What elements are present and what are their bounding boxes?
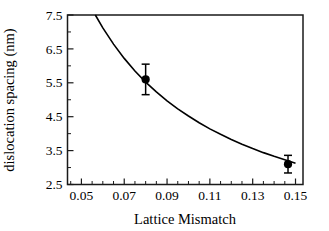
x-axis-title: Lattice Mismatch [134,211,237,227]
x-tick-label-2: 0.09 [155,188,179,203]
y-axis-ticks [68,15,74,185]
x-tick-label-0: 0.05 [70,188,94,203]
data-point-group-0 [142,64,150,95]
y-tick-label-4: 6.5 [46,42,63,57]
y-tick-label-0: 2.5 [46,177,63,192]
y-axis-tick-labels: 2.53.54.55.56.57.5 [46,8,63,193]
y-tick-label-5: 7.5 [46,8,63,23]
x-axis-ticks [71,179,296,185]
data-points [142,64,293,173]
y-tick-label-2: 4.5 [46,109,63,124]
plot-frame-rect [68,15,304,185]
data-point-marker-1 [284,160,292,168]
fitted-curve [95,15,295,163]
x-tick-label-5: 0.15 [284,188,308,203]
plot-frame [68,15,304,185]
chart-canvas: 0.050.070.090.110.130.15 2.53.54.55.56.5… [0,0,329,231]
y-tick-label-1: 3.5 [46,143,63,158]
x-tick-label-1: 0.07 [112,188,136,203]
x-tick-label-4: 0.13 [241,188,265,203]
fitted-curve-path [95,15,295,163]
y-tick-label-3: 5.5 [46,75,63,90]
data-point-marker-0 [142,75,150,83]
figure-container: 0.050.070.090.110.130.15 2.53.54.55.56.5… [0,0,329,231]
x-axis-tick-labels: 0.050.070.090.110.130.15 [70,188,308,203]
x-tick-label-3: 0.11 [198,188,221,203]
data-point-group-1 [284,155,292,173]
y-axis-title: dislocation spacing (nm) [1,28,18,172]
